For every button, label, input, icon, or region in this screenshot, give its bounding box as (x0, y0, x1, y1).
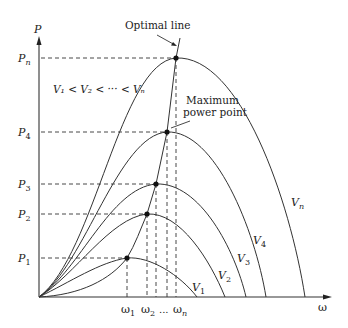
mpp-label-line2: power point (183, 106, 248, 118)
label-p2: P2 (17, 208, 31, 223)
label-p4: P4 (17, 126, 31, 141)
power-speed-diagram: P ω Optimal line Maximum power point V₁ … (0, 0, 348, 328)
label-ellipsis: ... (159, 304, 169, 315)
mpp-dot-n (173, 55, 178, 60)
label-v1: V1 (192, 281, 205, 296)
mpp-dot-2 (144, 211, 149, 216)
mpp-dot-3 (153, 181, 158, 186)
label-v4: V4 (253, 234, 266, 249)
arrow-head-icon (171, 42, 177, 46)
label-w1: ω1 (121, 303, 135, 318)
optimal-line (39, 38, 180, 297)
label-wn: ωn (173, 303, 187, 318)
optimal-line-label: Optimal line (125, 19, 191, 31)
mpp-label-line1: Maximum (186, 94, 239, 106)
label-v2: V2 (218, 269, 231, 284)
label-p1: P1 (17, 252, 31, 267)
mpp-dot-1 (124, 255, 129, 260)
label-pn: Pn (17, 52, 31, 67)
label-p3: P3 (17, 178, 31, 193)
p-axis-arrow-icon (37, 36, 42, 45)
mpp-pointer (171, 121, 190, 128)
p-axis-label: P (33, 23, 42, 36)
curve-v3 (39, 184, 246, 297)
mpp-dot-4 (164, 129, 169, 134)
label-w2: ω2 (141, 303, 155, 318)
label-vn: Vn (291, 196, 304, 211)
omega-axis-arrow-icon (323, 295, 332, 300)
label-v3: V3 (237, 252, 250, 267)
omega-axis-label: ω (318, 301, 327, 314)
voltage-inequality: V₁ < V₂ < ··· < Vₙ (53, 83, 145, 95)
